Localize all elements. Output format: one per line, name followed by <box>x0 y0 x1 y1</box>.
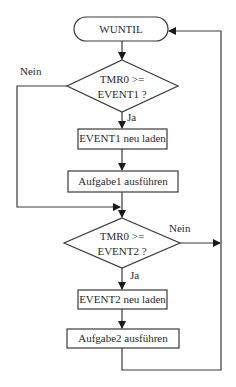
decision2-diamond <box>64 218 180 268</box>
process4-label: Aufgabe2 ausführen <box>67 332 179 345</box>
decision1-line2: EVENT1 ? <box>82 88 162 101</box>
decision2-line1: TMR0 >= <box>82 230 162 243</box>
decision2-yes-label: Ja <box>130 269 139 282</box>
decision2-line2: EVENT2 ? <box>82 245 162 258</box>
process3-label: EVENT2 neu laden <box>78 293 167 306</box>
decision1-no-label: Nein <box>20 65 41 78</box>
process1-label: EVENT1 neu laden <box>78 132 167 145</box>
decision2-no-label: Nein <box>169 222 190 235</box>
decision1-yes-label: Ja <box>127 111 136 124</box>
start-label: WUNTIL <box>74 23 168 36</box>
decision1-diamond <box>67 60 178 112</box>
flowchart-canvas <box>0 0 236 387</box>
decision1-line1: TMR0 >= <box>82 73 162 86</box>
process2-label: Aufgabe1 ausführen <box>68 175 178 188</box>
